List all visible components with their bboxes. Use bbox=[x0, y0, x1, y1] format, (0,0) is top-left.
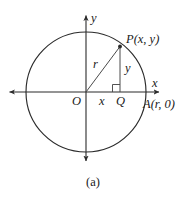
x-axis-label: x bbox=[151, 76, 158, 90]
point-a-label: A(r, 0) bbox=[142, 97, 175, 111]
figure-container: P(x, y) A(r, 0) O Q r y x x y (a) bbox=[0, 0, 186, 199]
figure-caption: (a) bbox=[86, 175, 100, 189]
radius-label: r bbox=[93, 57, 98, 71]
right-angle-marker bbox=[113, 85, 121, 93]
radius-segment bbox=[86, 47, 120, 93]
point-q-label: Q bbox=[116, 94, 125, 108]
point-p-label: P(x, y) bbox=[125, 32, 159, 46]
point-p-dot bbox=[118, 45, 122, 49]
y-axis-label: y bbox=[89, 11, 97, 25]
circle-diagram: P(x, y) A(r, 0) O Q r y x x y (a) bbox=[0, 0, 186, 199]
origin-label: O bbox=[72, 94, 81, 108]
horizontal-leg-label: x bbox=[98, 94, 105, 108]
vertical-leg-label: y bbox=[123, 61, 131, 75]
